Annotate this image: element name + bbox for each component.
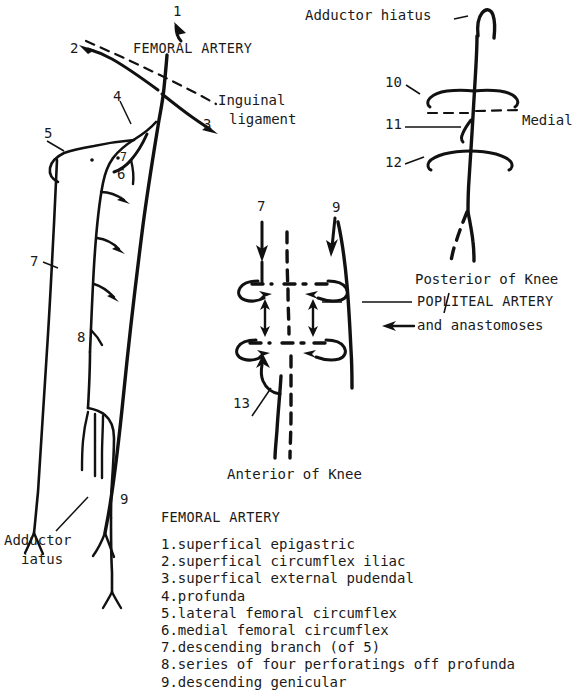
legend-title: FEMORAL ARTERY: [161, 509, 515, 525]
legend-item: 1.superfical epigastric: [161, 536, 515, 553]
leader-adductor-hiatus-right: [454, 16, 468, 19]
anast-popliteal-artery: [338, 222, 352, 388]
legend-item: 6.medial femoral circumflex: [161, 622, 515, 639]
legend-item: 5.lateral femoral circumflex: [161, 605, 515, 622]
anast-right-double-arrow: [308, 299, 318, 337]
leader-10: [406, 85, 420, 94]
callout-3: 3: [203, 117, 211, 131]
callout-13: 13: [233, 396, 250, 410]
callout-9-anast: 9: [332, 200, 340, 214]
popliteal-terminal-solid: [468, 212, 474, 261]
callout-7-anast: 7: [257, 199, 265, 213]
legend-list: 1.superfical epigastric 2.superfical cir…: [161, 536, 515, 691]
leader-4: [120, 101, 131, 124]
leader-adductor-hiatus-left: [56, 497, 88, 531]
legend-item: 3.superfical external pudendal: [161, 570, 515, 587]
callout-6: 6: [117, 167, 125, 181]
medial-label: Medial: [522, 113, 573, 127]
anast-branch-13: [256, 354, 280, 394]
adductor-hiatus-hook: [478, 10, 495, 38]
posterior-of-knee-label: Posterior of Knee: [415, 272, 558, 286]
anast-tibial-dashed: [290, 356, 291, 458]
inguinal-ligament-label-line2: ligament: [229, 112, 296, 126]
anast-left-double-arrow: [260, 299, 270, 337]
branch-11-middle-genicular: [462, 120, 472, 142]
callout-11: 11: [385, 117, 402, 131]
leader-12: [405, 157, 424, 164]
inguinal-ligament-label-line1: Inguinal: [218, 93, 285, 107]
legend-item: 4.profunda: [161, 588, 515, 605]
legend-item: 8.series of four perforatings off profun…: [161, 656, 515, 673]
leader-5: [47, 141, 64, 151]
and-anastomoses-arrow: [382, 321, 414, 331]
callout-1: 1: [173, 4, 181, 18]
popliteal-artery-label: POPLITEAL ARTERY: [417, 295, 553, 309]
branch-9-descending-genicular: [82, 408, 121, 608]
callout-12: 12: [385, 155, 402, 169]
femoral-artery-heading: FEMORAL ARTERY: [133, 42, 252, 56]
callout-8: 8: [77, 330, 85, 344]
branch-8-perforating-series: [91, 192, 130, 345]
panel-anastomoses: [237, 218, 414, 458]
callout-4: 4: [113, 89, 121, 103]
adductor-hiatus-right-label: Adductor hiatus: [305, 8, 431, 22]
leader-13: [252, 388, 271, 416]
anast-tibial-solid: [275, 376, 281, 458]
callout-7-short: 7: [120, 152, 127, 164]
callout-9-femoral: 9: [120, 492, 128, 506]
adductor-hiatus-left-line1: Adductor: [4, 533, 71, 547]
legend-item: 7.descending branch (of 5): [161, 639, 515, 656]
panel-popliteal-posterior: [405, 10, 520, 313]
anterior-of-knee-label: Anterior of Knee: [227, 467, 362, 481]
legend-item: 9.descending genicular: [161, 674, 515, 691]
callout-5: 5: [44, 126, 52, 140]
popliteal-terminal-dashed: [451, 212, 467, 261]
and-anastomoses-label: and anastomoses: [417, 318, 543, 332]
adductor-hiatus-left-line2: iatus: [21, 552, 63, 566]
callout-7-thigh: 7: [30, 254, 38, 268]
leader-dot-5: [90, 158, 94, 162]
callout-2: 2: [70, 41, 78, 55]
legend-item: 2.superfical circumflex iliac: [161, 553, 515, 570]
branch-7-descending-branch: [34, 160, 57, 533]
callout-10: 10: [385, 75, 402, 89]
legend: FEMORAL ARTERY 1.superfical epigastric 2…: [161, 509, 515, 691]
